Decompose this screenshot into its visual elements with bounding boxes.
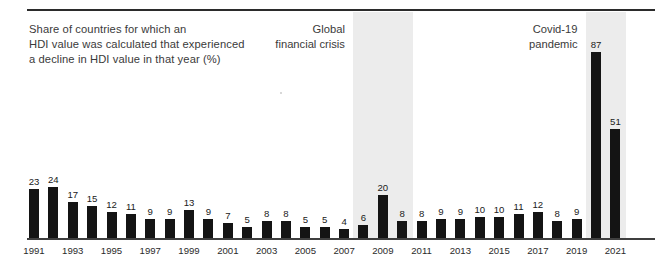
bar-value-2016: 11 [514,202,524,212]
x-tick-1997: 1997 [140,245,161,256]
bar-2011[interactable] [417,221,427,238]
bar-value-1996: 11 [126,202,136,212]
bar-value-1991: 23 [29,177,40,187]
bar-value-2003: 8 [264,209,269,219]
annotation-covid-19-pandemic-line-1: Covid-19 [426,22,578,37]
bar-value-2018: 8 [555,209,560,219]
bar-value-2006: 5 [322,215,327,225]
bar-2004[interactable] [281,221,291,238]
bar-2012[interactable] [436,219,446,238]
bar-value-2004: 8 [283,209,288,219]
bar-2000[interactable] [203,219,213,238]
bar-value-2009: 20 [377,183,388,193]
bar-value-1994: 15 [87,194,98,204]
bar-value-2005: 5 [303,215,308,225]
bar-value-2001: 7 [225,211,230,221]
bar-2015[interactable] [494,217,504,238]
bar-2003[interactable] [262,221,272,238]
bar-value-2002: 5 [245,215,250,225]
x-tick-2009: 2009 [372,245,393,256]
bar-2001[interactable] [223,223,233,238]
x-tick-2017: 2017 [527,245,548,256]
bar-2021[interactable] [610,129,620,238]
bar-value-2012: 9 [438,207,443,217]
annotation-global-financial-crisis: Globalfinancial crisis [193,22,345,52]
annotation-global-financial-crisis-line-1: Global [193,22,345,37]
bar-2010[interactable] [397,221,407,238]
bar-value-1997: 9 [148,207,153,217]
bar-2020[interactable] [591,52,601,238]
bar-1994[interactable] [87,206,97,238]
x-tick-2011: 2011 [411,245,432,256]
bar-1996[interactable] [126,214,136,238]
bar-value-2019: 9 [574,207,579,217]
bar-value-1995: 12 [106,200,117,210]
bar-value-2021: 51 [610,117,621,127]
bar-value-1993: 17 [67,190,78,200]
x-tick-2003: 2003 [256,245,277,256]
bar-2007[interactable] [339,229,349,238]
bar-value-2015: 10 [494,205,505,215]
bar-value-2008: 6 [361,213,366,223]
bar-2006[interactable] [320,227,330,238]
bar-1995[interactable] [107,212,117,238]
bar-value-2007: 4 [341,217,346,227]
bar-2014[interactable] [475,217,485,238]
bar-2002[interactable] [242,227,252,238]
x-tick-2005: 2005 [295,245,316,256]
x-tick-2007: 2007 [333,245,354,256]
bar-1998[interactable] [165,219,175,238]
annotation-covid-19-pandemic-line-2: pandemic [426,37,578,52]
bar-2016[interactable] [514,214,524,238]
bar-2009[interactable] [378,195,388,238]
x-tick-1995: 1995 [101,245,122,256]
bar-value-2010: 8 [400,209,405,219]
x-tick-1999: 1999 [178,245,199,256]
bar-1991[interactable] [29,189,39,238]
x-tick-2019: 2019 [566,245,587,256]
bar-value-1998: 9 [167,207,172,217]
hdi-decline-bar-chart: Share of countries for which an HDI valu… [0,0,666,270]
bar-2008[interactable] [358,225,368,238]
bar-2019[interactable] [572,219,582,238]
bar-1992[interactable] [48,187,58,238]
bar-value-2000: 9 [206,207,211,217]
x-tick-2001: 2001 [217,245,238,256]
x-tick-2013: 2013 [450,245,471,256]
bar-2013[interactable] [455,219,465,238]
bar-value-1992: 24 [48,175,59,185]
bar-1999[interactable] [184,210,194,238]
bar-value-2011: 8 [419,209,424,219]
annotation-global-financial-crisis-line-2: financial crisis [193,37,345,52]
bar-2017[interactable] [533,212,543,238]
x-axis-baseline [27,238,655,240]
bar-value-2020: 87 [591,40,602,50]
bar-2005[interactable] [300,227,310,238]
x-tick-1991: 1991 [23,245,44,256]
bar-value-2014: 10 [474,205,485,215]
bar-1993[interactable] [68,202,78,238]
bar-1997[interactable] [145,219,155,238]
bar-value-2017: 12 [533,200,544,210]
x-tick-1993: 1993 [62,245,83,256]
annotation-covid-19-pandemic: Covid-19pandemic [426,22,578,52]
x-tick-2015: 2015 [488,245,509,256]
bar-value-1999: 13 [184,198,195,208]
bar-2018[interactable] [552,221,562,238]
bar-value-2013: 9 [458,207,463,217]
x-tick-2021: 2021 [605,245,626,256]
